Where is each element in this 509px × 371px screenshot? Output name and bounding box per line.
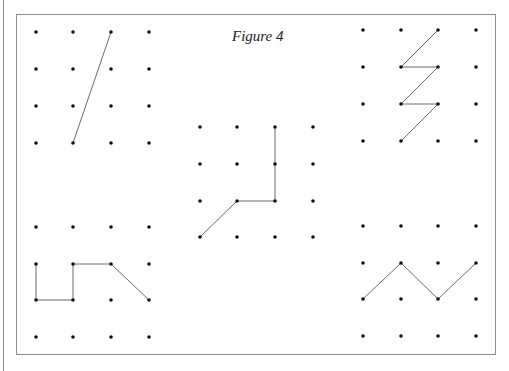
- grid-dot: [311, 235, 315, 239]
- grid-dot: [361, 334, 365, 338]
- grid-dot: [361, 139, 365, 143]
- grid-dot: [436, 28, 440, 32]
- grid-dot: [109, 225, 113, 229]
- grid-dot: [273, 162, 277, 166]
- grid-dot: [399, 334, 403, 338]
- grid-dot: [235, 162, 239, 166]
- grid-dot: [147, 30, 151, 34]
- grid-dot: [436, 334, 440, 338]
- grid-dot: [399, 297, 403, 301]
- grid-dot: [361, 102, 365, 106]
- grid-dot: [361, 261, 365, 265]
- dot-grid-top-left: [34, 30, 151, 145]
- grid-dot: [71, 262, 75, 266]
- grid-dot: [71, 141, 75, 145]
- grid-dot: [34, 262, 38, 266]
- dot-grid-top-right: [361, 28, 478, 143]
- grid-dot: [311, 199, 315, 203]
- grid-dot: [474, 261, 478, 265]
- grid-dot: [474, 297, 478, 301]
- grid-dot: [34, 141, 38, 145]
- grid-dot: [147, 67, 151, 71]
- grid-dot: [361, 297, 365, 301]
- grid-dot: [399, 139, 403, 143]
- grid-dot: [198, 199, 202, 203]
- grid-dot: [436, 297, 440, 301]
- grid-dot: [436, 261, 440, 265]
- dot-grid-figure: [0, 0, 509, 371]
- grid-dot: [399, 224, 403, 228]
- grid-dot: [34, 104, 38, 108]
- dot-grid-center: [198, 125, 315, 239]
- grid-dot: [436, 65, 440, 69]
- grid-dot: [109, 67, 113, 71]
- grid-dot: [361, 65, 365, 69]
- dot-grid-bottom-left: [34, 225, 151, 339]
- grid-dot: [147, 298, 151, 302]
- grid-dot: [71, 335, 75, 339]
- grid-dot: [71, 225, 75, 229]
- grid-dot: [198, 162, 202, 166]
- grid-dot: [399, 65, 403, 69]
- grid-dot: [34, 30, 38, 34]
- grid-dot: [399, 261, 403, 265]
- grid-dot: [34, 225, 38, 229]
- grid-dot: [109, 335, 113, 339]
- grid-dot: [198, 125, 202, 129]
- grid-dot: [361, 28, 365, 32]
- grid-path-bottom-right: [363, 263, 476, 299]
- grid-dot: [235, 199, 239, 203]
- grid-dot: [273, 235, 277, 239]
- grid-dot: [273, 199, 277, 203]
- grid-dot: [311, 125, 315, 129]
- grid-dot: [109, 298, 113, 302]
- grid-dot: [474, 28, 478, 32]
- grid-dot: [147, 262, 151, 266]
- grid-dot: [71, 298, 75, 302]
- grid-dot: [474, 65, 478, 69]
- grid-dot: [71, 104, 75, 108]
- grid-dot: [436, 224, 440, 228]
- grid-dot: [109, 30, 113, 34]
- grid-dot: [34, 67, 38, 71]
- grid-dot: [198, 235, 202, 239]
- grid-dot: [474, 102, 478, 106]
- grid-dot: [109, 141, 113, 145]
- dot-grid-bottom-right: [361, 224, 478, 338]
- grid-dot: [147, 141, 151, 145]
- grid-dot: [273, 125, 277, 129]
- grid-dot: [71, 67, 75, 71]
- grid-path-top-right: [401, 30, 438, 141]
- grid-path-bottom-left: [36, 264, 149, 300]
- grid-dot: [147, 335, 151, 339]
- grid-dot: [109, 262, 113, 266]
- grid-dot: [436, 139, 440, 143]
- grid-dot: [474, 334, 478, 338]
- grid-dot: [436, 102, 440, 106]
- grid-dot: [34, 335, 38, 339]
- grid-path-top-left: [73, 32, 111, 143]
- grid-dot: [147, 225, 151, 229]
- grid-dot: [399, 28, 403, 32]
- grid-path-center: [200, 127, 275, 237]
- grid-dot: [474, 139, 478, 143]
- grid-dot: [109, 104, 113, 108]
- grid-dot: [399, 102, 403, 106]
- grid-dot: [474, 224, 478, 228]
- grid-dot: [311, 162, 315, 166]
- grid-dot: [147, 104, 151, 108]
- grid-dot: [235, 235, 239, 239]
- grid-dot: [361, 224, 365, 228]
- grid-dot: [34, 298, 38, 302]
- grid-dot: [235, 125, 239, 129]
- grid-dot: [71, 30, 75, 34]
